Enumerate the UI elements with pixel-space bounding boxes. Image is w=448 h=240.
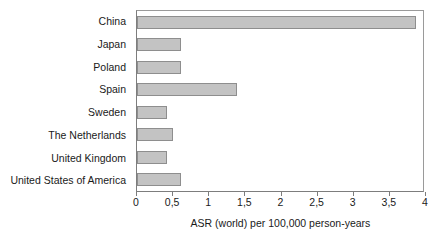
x-tick-label: 0	[133, 197, 139, 208]
bar-row	[137, 34, 423, 57]
x-tick-label: 0,5	[165, 197, 180, 208]
category-label: China	[99, 16, 126, 27]
category-axis: ChinaJapanPolandSpainSwedenThe Netherlan…	[0, 10, 131, 192]
category-label: United States of America	[10, 175, 126, 186]
category-label-cell: United Kingdom	[0, 147, 131, 170]
bar-row	[137, 56, 423, 79]
category-label-cell: United States of America	[0, 169, 131, 192]
category-label: Poland	[93, 62, 126, 73]
bar	[137, 83, 237, 96]
category-label-cell: China	[0, 10, 131, 33]
x-tick-label: 3,5	[382, 197, 397, 208]
x-tick-label: 1,5	[237, 197, 252, 208]
x-tick-label: 2,5	[309, 197, 324, 208]
plot-area	[136, 10, 424, 192]
category-label: Japan	[97, 39, 126, 50]
x-tick-label: 4	[422, 197, 428, 208]
bar	[137, 16, 416, 29]
x-tick-label: 3	[350, 197, 356, 208]
bar-row	[137, 169, 423, 192]
category-label-cell: The Netherlands	[0, 124, 131, 147]
bar	[137, 106, 167, 119]
bar	[137, 151, 167, 164]
bar	[137, 38, 181, 51]
category-label: United Kingdom	[51, 153, 126, 164]
bar	[137, 173, 181, 186]
bar-row	[137, 11, 423, 34]
bars-layer	[137, 11, 423, 191]
category-label-cell: Sweden	[0, 101, 131, 124]
bar-chart: ChinaJapanPolandSpainSwedenThe Netherlan…	[0, 0, 448, 240]
category-label: Sweden	[88, 107, 126, 118]
x-axis-title: ASR (world) per 100,000 person-years	[136, 218, 425, 229]
bar-row	[137, 101, 423, 124]
category-label-cell: Spain	[0, 78, 131, 101]
bar-row	[137, 79, 423, 102]
x-axis: 00,511,522,533,54	[136, 192, 425, 216]
category-label: The Netherlands	[48, 130, 126, 141]
x-tick-label: 1	[205, 197, 211, 208]
bar-row	[137, 124, 423, 147]
category-label-cell: Poland	[0, 56, 131, 79]
bar	[137, 128, 173, 141]
category-label-cell: Japan	[0, 33, 131, 56]
bar	[137, 61, 181, 74]
category-label: Spain	[99, 84, 126, 95]
x-tick-label: 2	[278, 197, 284, 208]
bar-row	[137, 146, 423, 169]
